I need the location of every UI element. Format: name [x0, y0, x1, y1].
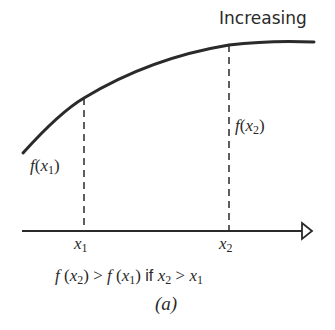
x-axis-arrow-icon: [302, 223, 312, 239]
increasing-curve: [23, 41, 314, 153]
figure-label: (a): [155, 293, 177, 315]
caption-inequality: f (x2) > f (x1) if x2 > x1: [55, 266, 203, 288]
x1-tick-label: x1: [74, 234, 88, 256]
x2-tick-label: x2: [219, 234, 233, 256]
f-x1-label: f(x1): [30, 156, 60, 178]
increasing-label: Increasing: [219, 8, 307, 28]
f-x2-label: f(x2): [235, 116, 265, 138]
